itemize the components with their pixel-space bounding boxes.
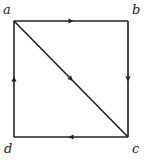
arrowhead-c-d-icon [69,134,74,139]
graph-diagram: a b c d [0,0,148,162]
node-label-b: b [132,2,140,17]
node-label-d: d [4,141,12,156]
arrowhead-d-a-icon [11,77,16,82]
arrowhead-a-b-icon [69,18,74,23]
node-label-c: c [132,141,140,156]
arrowhead-b-c-icon [125,77,130,82]
node-label-a: a [3,2,11,17]
